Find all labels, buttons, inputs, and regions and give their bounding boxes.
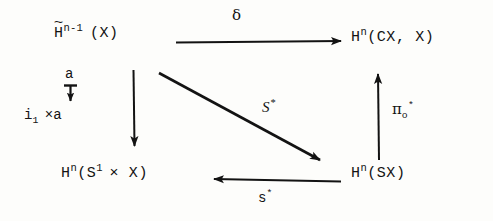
label-s-star: s* — [258, 191, 273, 205]
node-bottom-left-arg-superscript: 1 — [96, 162, 103, 174]
commutative-diagram: ~Hn-1(X) Hn(CX, X) Hn(S1× X) Hn(SX) δ S*… — [0, 0, 493, 221]
node-bottom-right-argument: (SX) — [367, 165, 405, 182]
node-bottom-left-arg-pre: (S — [77, 165, 96, 182]
label-s-star-superscript: * — [266, 188, 272, 199]
top-arrow-delta — [176, 41, 341, 43]
node-top-right: Hn(CX, X) — [351, 30, 434, 45]
label-pi-zero-star: πo* — [392, 102, 414, 117]
label-pi-base: π — [392, 100, 402, 118]
node-top-right-argument: (CX, X) — [367, 29, 434, 46]
label-i1-subscript: 1 — [32, 115, 38, 126]
label-i1-cross-a: i1×a — [24, 108, 62, 122]
node-bottom-left-arg-post: × X) — [110, 165, 148, 182]
diagonal-arrow — [159, 73, 320, 160]
node-top-left: ~Hn-1(X) — [54, 26, 119, 41]
node-bottom-left: Hn(S1× X) — [61, 166, 148, 181]
label-pi-superscript: * — [408, 100, 414, 111]
label-S-star-superscript: * — [270, 97, 275, 108]
tilde-accent-group: ~H — [54, 26, 64, 41]
node-top-right-base: H — [351, 29, 361, 46]
node-bottom-left-base: H — [61, 165, 71, 182]
node-bottom-right: Hn(SX) — [351, 166, 406, 181]
label-pi-subscript: o — [402, 110, 408, 121]
node-top-left-argument: (X) — [90, 25, 119, 42]
label-i1-rest: ×a — [45, 107, 62, 123]
node-bottom-right-base: H — [351, 165, 361, 182]
tilde-icon: ~ — [54, 17, 64, 30]
left-arrow-down — [134, 70, 135, 146]
bottom-arrow-left — [214, 179, 341, 182]
label-S-star: S* — [262, 100, 275, 115]
label-S-star-base: S — [262, 99, 270, 115]
side-annotation-arrow — [64, 85, 77, 101]
label-delta: δ — [232, 8, 241, 23]
node-top-left-superscript: n-1 — [64, 22, 84, 34]
label-a: a — [65, 67, 73, 81]
right-arrow-up — [378, 74, 379, 160]
